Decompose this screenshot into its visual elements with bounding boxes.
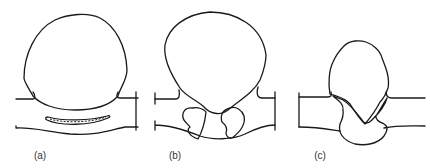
panel-c-drawing xyxy=(299,41,425,145)
panel-b-drawing xyxy=(155,12,275,139)
panel-label-b: (b) xyxy=(169,150,181,161)
panel-a-drawing xyxy=(16,14,138,134)
panel-label-c: (c) xyxy=(314,150,326,161)
panel-label-a: (a) xyxy=(34,150,46,161)
weld-diagram xyxy=(0,0,430,168)
